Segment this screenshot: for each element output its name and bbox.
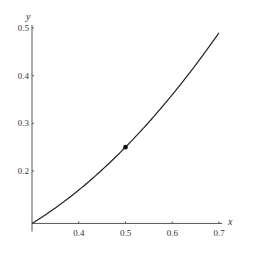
x-tick-label: 0.4 [73, 228, 85, 238]
x-axis-label: x [227, 216, 233, 227]
chart: 0.40.50.60.7 x 0.20.30.40.5 y [0, 0, 253, 254]
x-tick-label: 0.5 [120, 228, 132, 238]
y-tick-label: 0.4 [18, 71, 30, 81]
highlight-point [123, 145, 128, 150]
y-axis-label: y [25, 11, 31, 22]
y-tick-label: 0.5 [18, 23, 30, 33]
data-points [123, 145, 128, 150]
x-ticks: 0.40.50.60.7 [73, 221, 225, 238]
y-tick-label: 0.3 [18, 118, 30, 128]
x-tick-label: 0.7 [213, 228, 225, 238]
x-tick: 0.4 [73, 221, 85, 238]
y-tick-label: 0.2 [18, 166, 29, 176]
x-axis: 0.40.50.60.7 x [32, 216, 233, 238]
y-axis: 0.20.30.40.5 y [18, 11, 34, 231]
x-tick: 0.7 [213, 221, 225, 238]
x-tick: 0.5 [120, 221, 132, 238]
x-tick: 0.6 [167, 221, 179, 238]
x-tick-label: 0.6 [167, 228, 179, 238]
curve-line [32, 33, 219, 224]
